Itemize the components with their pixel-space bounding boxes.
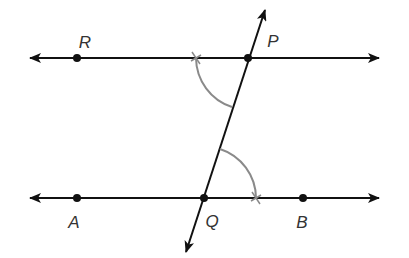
point-a — [73, 194, 81, 202]
point-q — [200, 194, 208, 202]
construction-arc-q — [220, 149, 256, 198]
label-q: Q — [205, 213, 218, 230]
point-b — [299, 194, 307, 202]
geometry-diagram: R P A Q B — [0, 0, 409, 258]
label-p: P — [267, 33, 278, 50]
point-r — [73, 54, 81, 62]
construction-arc-p — [196, 58, 232, 107]
label-r: R — [79, 34, 91, 51]
transversal-pq — [186, 10, 265, 252]
label-b: B — [296, 214, 307, 231]
label-a: A — [68, 214, 79, 231]
point-p — [244, 54, 252, 62]
